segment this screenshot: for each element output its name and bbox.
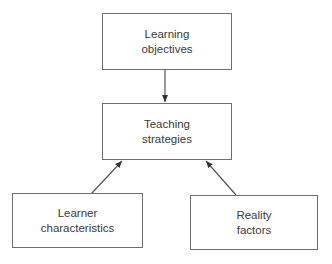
- node-label-line1: Learning: [141, 27, 192, 42]
- diagram-canvas: Learning objectives Teaching strategies …: [0, 0, 332, 264]
- node-label-line2: factors: [236, 223, 271, 238]
- node-label-line2: characteristics: [41, 221, 115, 236]
- node-reality-factors: Reality factors: [190, 195, 318, 250]
- node-label-line2: objectives: [141, 42, 192, 57]
- node-learner-characteristics: Learner characteristics: [12, 193, 143, 248]
- node-learning-objectives: Learning objectives: [102, 13, 232, 70]
- arrow-learner-to-strategies: [91, 161, 122, 194]
- arrow-reality-to-strategies: [206, 161, 236, 195]
- node-label-line1: Reality: [236, 208, 271, 223]
- node-label-line2: strategies: [142, 132, 192, 147]
- node-teaching-strategies: Teaching strategies: [102, 103, 232, 160]
- node-label-line1: Teaching: [142, 117, 192, 132]
- node-label-line1: Learner: [41, 206, 115, 221]
